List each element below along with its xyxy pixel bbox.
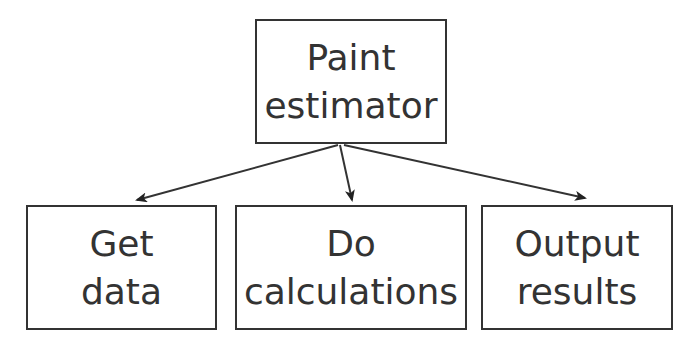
node-label-line: data: [81, 268, 162, 316]
arrow-to-get-data: [137, 145, 338, 200]
node-label-line: Output: [514, 220, 639, 268]
node-label-line: estimator: [264, 82, 437, 130]
root-node-paint-estimator: Paint estimator: [255, 19, 447, 144]
node-label-line: calculations: [244, 268, 458, 316]
arrow-to-output-results: [344, 145, 585, 198]
child-node-get-data: Get data: [26, 205, 217, 330]
node-label-line: Paint: [306, 34, 395, 82]
node-label-line: results: [517, 268, 638, 316]
node-label-line: Do: [326, 220, 376, 268]
node-label-line: Get: [89, 220, 153, 268]
arrow-to-do-calculations: [340, 145, 352, 200]
child-node-do-calculations: Do calculations: [235, 205, 467, 330]
child-node-output-results: Output results: [481, 205, 673, 330]
